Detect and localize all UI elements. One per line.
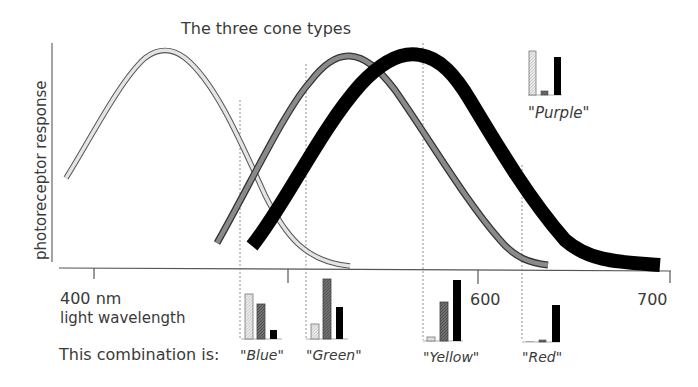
bar-long — [270, 330, 277, 339]
bar-group-red — [522, 305, 560, 342]
bar-short — [311, 324, 319, 339]
combination-label-red: "Red" — [522, 349, 562, 365]
bar-group-yellow — [423, 280, 463, 341]
bar-group-purple — [528, 51, 562, 95]
bar-long — [336, 307, 343, 339]
bar-medium — [323, 279, 331, 339]
bar-long — [453, 280, 461, 341]
bar-short — [245, 294, 253, 339]
bar-long — [552, 305, 560, 342]
bar-short — [526, 341, 534, 342]
x-axis-line — [59, 268, 671, 271]
combination-label-yellow: "Yellow" — [423, 349, 479, 365]
combination-label-purple: "Purple" — [528, 104, 589, 122]
cone-response-plot — [0, 0, 698, 387]
bar-short — [427, 337, 435, 341]
curve-long-cone — [252, 54, 660, 265]
bar-short — [529, 51, 536, 95]
combination-label-green: "Green" — [306, 347, 362, 363]
bar-medium — [257, 304, 265, 339]
bar-group-blue — [241, 294, 282, 339]
bar-group-green — [306, 279, 348, 339]
bar-long — [554, 57, 561, 95]
bar-medium — [541, 91, 548, 95]
bar-medium — [539, 340, 546, 342]
combination-label-blue: "Blue" — [240, 347, 284, 363]
bar-medium — [440, 302, 448, 341]
